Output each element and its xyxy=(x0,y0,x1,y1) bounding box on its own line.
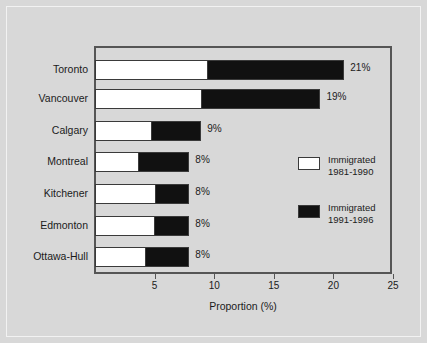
bar-row xyxy=(95,216,190,236)
legend-label-1981-1990-line1: Immigrated xyxy=(328,154,376,166)
bar-value-label: 21% xyxy=(350,62,370,73)
category-label-vancouver: Vancouver xyxy=(0,92,88,104)
bar-row xyxy=(95,152,190,172)
category-label-montreal: Montreal xyxy=(0,155,88,167)
figure-page: Toronto Vancouver Calgary Montreal Kitch… xyxy=(0,0,427,343)
category-label-toronto: Toronto xyxy=(0,63,88,75)
bar-value-label: 8% xyxy=(195,249,209,260)
bar-segment-1981-1990 xyxy=(95,247,146,267)
x-axis-tick xyxy=(333,274,334,279)
bar-segment-1991-1996 xyxy=(207,60,344,80)
legend-entry-immigrated-1991-1996: Immigrated 1991-1996 xyxy=(298,204,390,238)
x-axis-tick xyxy=(214,274,215,279)
bar-segment-1981-1990 xyxy=(95,89,202,109)
x-axis-tick-label: 5 xyxy=(140,280,170,291)
bar-segment-1991-1996 xyxy=(155,184,190,204)
legend-label-1991-1996: Immigrated 1991-1996 xyxy=(328,202,376,225)
legend-label-1991-1996-line1: Immigrated xyxy=(328,202,376,214)
category-label-calgary: Calgary xyxy=(0,124,88,136)
bar-segment-1991-1996 xyxy=(151,121,201,141)
legend-label-1991-1996-line2: 1991-1996 xyxy=(328,214,376,226)
category-label-kitchener: Kitchener xyxy=(0,187,88,199)
chart-legend: Immigrated 1981-1990 Immigrated 1991-199… xyxy=(298,156,390,252)
x-axis-tick xyxy=(155,274,156,279)
legend-swatch-black-icon xyxy=(298,205,320,218)
bar-segment-1981-1990 xyxy=(95,216,155,236)
bar-value-label: 19% xyxy=(326,91,346,102)
category-label-ottawa-hull: Ottawa-Hull xyxy=(0,250,88,262)
x-axis-tick-label: 25 xyxy=(378,280,408,291)
stacked-bar-chart: Toronto Vancouver Calgary Montreal Kitch… xyxy=(0,0,427,343)
bar-segment-1991-1996 xyxy=(145,247,189,267)
bar-row xyxy=(95,247,190,267)
bar-value-label: 8% xyxy=(195,218,209,229)
bar-value-label: 8% xyxy=(195,186,209,197)
legend-label-1981-1990-line2: 1981-1990 xyxy=(328,166,376,178)
bar-row xyxy=(95,121,202,141)
legend-swatch-white-icon xyxy=(298,157,320,170)
x-axis-tick-label: 10 xyxy=(199,280,229,291)
bar-row xyxy=(95,89,321,109)
legend-label-1981-1990: Immigrated 1981-1990 xyxy=(328,154,376,177)
bar-segment-1981-1990 xyxy=(95,184,156,204)
bar-segment-1991-1996 xyxy=(138,152,189,172)
bar-segment-1981-1990 xyxy=(95,152,139,172)
bar-segment-1981-1990 xyxy=(95,121,152,141)
bar-value-label: 9% xyxy=(207,123,221,134)
x-axis-title: Proportion (%) xyxy=(94,300,392,312)
x-axis-tick xyxy=(274,274,275,279)
bar-segment-1981-1990 xyxy=(95,60,208,80)
bar-value-label: 8% xyxy=(195,154,209,165)
legend-entry-immigrated-1981-1990: Immigrated 1981-1990 xyxy=(298,156,390,190)
bar-segment-1991-1996 xyxy=(154,216,190,236)
bar-row xyxy=(95,60,345,80)
x-axis-tick-label: 15 xyxy=(259,280,289,291)
category-label-edmonton: Edmonton xyxy=(0,219,88,231)
x-axis-tick xyxy=(393,274,394,279)
bar-row xyxy=(95,184,190,204)
x-axis-tick-label: 20 xyxy=(318,280,348,291)
bar-segment-1991-1996 xyxy=(201,89,320,109)
